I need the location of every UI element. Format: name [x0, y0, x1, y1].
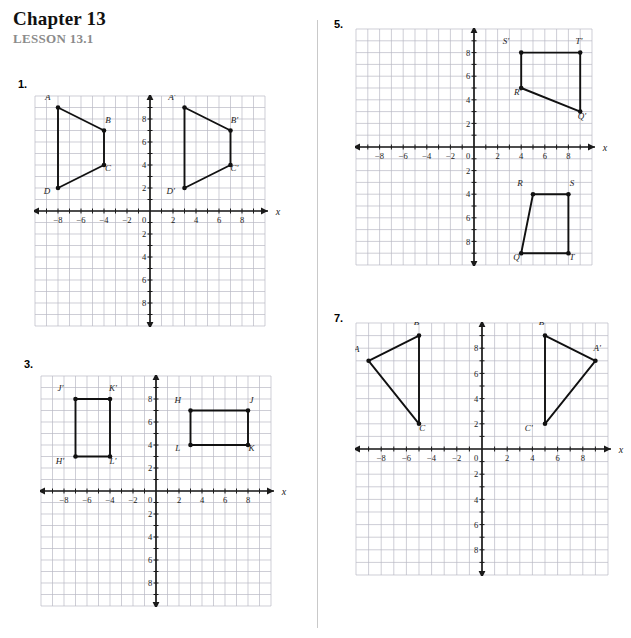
vertex-point — [102, 128, 107, 133]
vertex-label: H — [174, 395, 182, 405]
svg-text:6: 6 — [142, 137, 146, 147]
svg-text:8: 8 — [240, 215, 244, 225]
svg-text:2: 2 — [466, 119, 470, 129]
problem-1-graph[interactable]: −8−6−4−22468086422468xyABCDA'B'C'D' — [34, 95, 290, 327]
svg-text:4: 4 — [530, 453, 535, 463]
svg-text:2: 2 — [177, 495, 181, 505]
vertex-label: S — [570, 178, 575, 188]
vertex-label: K — [247, 443, 255, 453]
vertex-point — [246, 408, 251, 413]
vertex-label: D' — [165, 186, 175, 196]
svg-text:−8: −8 — [377, 453, 386, 463]
svg-text:x: x — [281, 486, 287, 497]
vertex-label: R' — [513, 87, 522, 97]
coordinate-plane: −8−6−4−22468086422468xyS'T'Q'R'RSTQ — [355, 28, 617, 266]
vertex-label: J — [249, 395, 254, 405]
vertex-label: Q' — [578, 111, 587, 121]
vertex-point — [188, 408, 193, 413]
vertex-point — [417, 333, 422, 338]
vertex-label: B' — [539, 322, 547, 327]
svg-text:−6: −6 — [399, 151, 408, 161]
svg-text:2: 2 — [474, 469, 478, 479]
svg-text:6: 6 — [148, 417, 152, 427]
svg-text:8: 8 — [466, 48, 470, 58]
vertex-point — [578, 50, 583, 55]
svg-text:2: 2 — [474, 419, 478, 429]
svg-text:−2: −2 — [452, 453, 461, 463]
vertex-label: T — [569, 252, 575, 262]
svg-text:x: x — [602, 142, 608, 153]
svg-text:4: 4 — [519, 151, 524, 161]
vertex-label: A — [355, 344, 360, 354]
vertex-label: C' — [525, 423, 534, 433]
svg-text:−4: −4 — [427, 453, 437, 463]
svg-text:−6: −6 — [82, 495, 91, 505]
svg-text:−4: −4 — [99, 215, 109, 225]
svg-text:−6: −6 — [402, 453, 411, 463]
vertex-point — [531, 192, 536, 197]
svg-text:6: 6 — [474, 520, 478, 530]
vertex-label: L — [174, 443, 180, 453]
svg-text:−8: −8 — [59, 495, 68, 505]
problem-3-graph[interactable]: −8−6−4−22468086422468xyJ'K'L'H'HJKL — [40, 375, 296, 607]
coordinate-plane: −8−6−4−22468086422468xyABCDA'B'C'D' — [34, 95, 290, 327]
svg-text:2: 2 — [171, 215, 175, 225]
vertex-label: D — [43, 186, 51, 196]
problem-3-number: 3. — [24, 358, 33, 370]
svg-text:8: 8 — [566, 151, 570, 161]
axis-names: xy — [154, 375, 287, 497]
svg-text:8: 8 — [581, 453, 585, 463]
axis-names: xy — [480, 322, 624, 455]
vertex-label: B — [105, 115, 111, 125]
vertex-label: L' — [108, 456, 117, 466]
shape-2: A'B'C'D' — [165, 95, 239, 196]
svg-text:4: 4 — [194, 215, 199, 225]
svg-text:8: 8 — [148, 394, 152, 404]
axis-names: xy — [148, 95, 281, 217]
vertex-label: K' — [108, 383, 118, 393]
vertex-point — [73, 454, 78, 459]
vertex-label: S' — [503, 36, 511, 46]
svg-text:8: 8 — [142, 298, 146, 308]
problem-5-number: 5. — [334, 18, 343, 30]
vertex-point — [56, 105, 61, 110]
svg-text:2: 2 — [148, 463, 152, 473]
svg-text:6: 6 — [142, 275, 146, 285]
svg-text:−8: −8 — [53, 215, 62, 225]
svg-text:4: 4 — [200, 495, 205, 505]
vertex-label: C' — [231, 163, 240, 173]
vertex-point — [543, 422, 548, 427]
svg-text:6: 6 — [474, 369, 478, 379]
vertex-label: R — [516, 178, 523, 188]
shape-2: RSTQ — [513, 178, 575, 262]
column-divider — [317, 20, 318, 628]
vertex-label: A' — [167, 95, 176, 102]
problem-7-number: 7. — [334, 312, 343, 324]
svg-text:8: 8 — [246, 495, 250, 505]
svg-text:6: 6 — [148, 555, 152, 565]
vertex-label: A — [44, 95, 51, 102]
vertex-point — [182, 186, 187, 191]
svg-text:0: 0 — [466, 151, 470, 161]
vertex-point — [543, 333, 548, 338]
problem-5-graph[interactable]: −8−6−4−22468086422468xyS'T'Q'R'RSTQ — [355, 28, 617, 266]
problem-1-number: 1. — [18, 78, 27, 90]
coordinate-plane: −8−6−4−22468086422468xyJ'K'L'H'HJKL — [40, 375, 296, 607]
problem-7-graph[interactable]: −8−6−4−22468086422468xyABCA'B'C' — [355, 322, 631, 576]
vertex-point — [228, 128, 233, 133]
svg-text:−8: −8 — [375, 151, 384, 161]
svg-text:8: 8 — [474, 343, 478, 353]
svg-text:2: 2 — [495, 151, 499, 161]
svg-text:8: 8 — [148, 578, 152, 588]
page-title: Chapter 13 — [13, 8, 106, 30]
worksheet-page: Chapter 13 LESSON 13.1 1. −8−6−4−2246808… — [0, 0, 631, 638]
svg-text:6: 6 — [543, 151, 547, 161]
coordinate-plane: −8−6−4−22468086422468xyABCA'B'C' — [355, 322, 631, 576]
vertex-label: Q — [513, 252, 520, 262]
vertex-label: C — [419, 423, 426, 433]
svg-text:−2: −2 — [122, 215, 131, 225]
vertex-point — [56, 186, 61, 191]
svg-text:x: x — [618, 444, 624, 455]
shape-2: HJKL — [174, 395, 256, 454]
svg-text:6: 6 — [466, 213, 470, 223]
